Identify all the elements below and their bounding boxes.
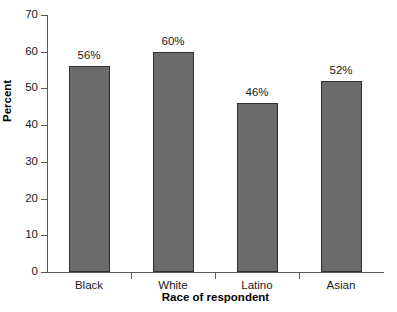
y-tick-label: 60 <box>0 46 38 58</box>
y-tick-mark <box>41 199 47 200</box>
category-label: Latino <box>217 280 297 292</box>
category-label: Asian <box>301 280 381 292</box>
y-axis-title: Percent <box>2 80 14 122</box>
bar-chart: 010203040506070 56%60%46%52% BlackWhiteL… <box>0 0 397 312</box>
y-tick-mark <box>41 88 47 89</box>
x-tick-mark <box>215 273 216 279</box>
bar-value-label: 56% <box>59 50 119 62</box>
bar <box>237 103 278 272</box>
y-tick-mark <box>41 125 47 126</box>
y-tick-mark <box>41 15 47 16</box>
y-tick-mark <box>41 52 47 53</box>
bar <box>69 66 110 272</box>
y-tick-mark <box>41 162 47 163</box>
bar <box>321 81 362 272</box>
bar-value-label: 46% <box>227 87 287 99</box>
y-tick-mark <box>41 272 47 273</box>
x-tick-mark <box>299 273 300 279</box>
y-axis-line <box>47 15 48 273</box>
bar <box>153 52 194 272</box>
bar-value-label: 60% <box>143 36 203 48</box>
bar-value-label: 52% <box>311 65 371 77</box>
y-tick-label: 70 <box>0 9 38 21</box>
x-axis-title: Race of respondent <box>47 292 384 304</box>
y-tick-label: 30 <box>0 156 38 168</box>
category-label: Black <box>49 280 129 292</box>
y-tick-label: 20 <box>0 193 38 205</box>
category-label: White <box>133 280 213 292</box>
y-tick-mark <box>41 235 47 236</box>
x-tick-mark <box>131 273 132 279</box>
y-tick-label: 10 <box>0 229 38 241</box>
y-tick-label: 0 <box>0 266 38 278</box>
